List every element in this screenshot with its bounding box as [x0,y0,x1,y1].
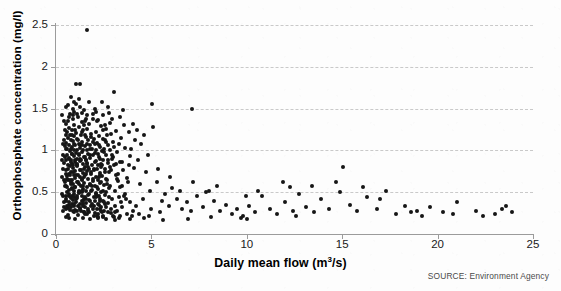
scatter-point [409,210,413,214]
scatter-point [78,207,82,211]
scatter-point [96,202,100,206]
scatter-point [275,212,279,216]
scatter-point [85,127,89,131]
scatter-point [88,182,92,186]
scatter-point [117,142,121,146]
scatter-point [108,165,112,169]
scatter-point [125,212,129,216]
scatter-point [415,209,419,213]
scatter-point [85,28,89,32]
scatter-point [341,165,345,169]
scatter-point [69,147,73,151]
scatter-point [116,172,120,176]
scatter-point [327,207,331,211]
scatter-point [97,175,101,179]
scatter-point [294,214,298,218]
y-tick-label-1.5: 1.5 [0,103,48,115]
scatter-point [69,95,73,99]
scatter-point [81,148,85,152]
scatter-point [133,138,137,142]
scatter-point [319,197,323,201]
scatter-point [65,204,69,208]
scatter-point [113,204,117,208]
scatter-point [428,205,432,209]
x-tick-label-5: 5 [148,239,154,251]
y-axis-label: Orthophosphate concentration (mg/l) [10,3,23,229]
x-tick-label-25: 25 [527,239,540,251]
scatter-point [118,185,122,189]
scatter-point [85,142,89,146]
scatter-point [101,128,105,132]
scatter-point [75,112,79,116]
scatter-point [268,207,272,211]
scatter-point [455,200,459,204]
scatter-point [245,217,249,221]
scatter-point [121,108,125,112]
scatter-point [89,135,93,139]
scatter-point [239,216,243,220]
scatter-point [180,207,184,211]
scatter-point [108,121,112,125]
scatter-point [113,189,117,193]
scatter-point [128,200,132,204]
scatter-point [144,170,148,174]
scatter-point [71,107,75,111]
scatter-point [253,210,257,214]
y-tick-label-2.5: 2.5 [0,19,48,31]
scatter-point [80,130,84,134]
scatter-point [122,123,126,127]
scatter-point [224,203,228,207]
scatter-point [87,122,91,126]
scatter-point [109,132,113,136]
chart-figure: 00.511.522.5 0510152025 Orthophosphate c… [0,0,561,291]
scatter-point [127,163,131,167]
scatter-point [150,102,154,106]
scatter-point [68,173,72,177]
scatter-point [510,210,514,214]
scatter-point [338,190,342,194]
scatter-point [283,200,287,204]
scatter-point [91,207,95,211]
scatter-point [230,212,234,216]
scatter-point [85,113,89,117]
scatter-point [201,205,205,209]
scatter-point [64,172,68,176]
x-tick-label-20: 20 [431,239,444,251]
scatter-point [109,168,113,172]
scatter-point [103,123,107,127]
scatter-point [61,209,65,213]
scatter-point [141,197,145,201]
scatter-point [215,184,219,188]
scatter-point [114,162,118,166]
scatter-point [281,180,285,184]
scatter-point [161,218,165,222]
scatter-point [93,142,97,146]
scatter-point [146,153,150,157]
scatter-point [105,133,109,137]
scatter-point [64,105,68,109]
scatter-point [63,155,67,159]
y-tick-label-0: 0 [0,228,48,240]
scatter-point [72,100,76,104]
scatter-point [355,209,359,213]
scatter-point [136,158,140,162]
scatter-point [83,212,87,216]
scatter-point [106,105,110,109]
scatter-point [88,153,92,157]
scatter-point [131,122,135,126]
scatter-point [63,128,67,132]
scatter-point [147,214,151,218]
scatter-point [168,175,172,179]
scatter-point [148,189,152,193]
scatter-plot-area [56,25,533,234]
scatter-point [120,160,124,164]
x-tick-label-15: 15 [336,239,349,251]
scatter-point [81,184,85,188]
scatter-point [106,210,110,214]
scatter-point [117,195,121,199]
scatter-point [84,172,88,176]
scatter-point [310,184,314,188]
scatter-point [212,199,216,203]
scatter-point [384,189,388,193]
scatter-point [170,186,174,190]
